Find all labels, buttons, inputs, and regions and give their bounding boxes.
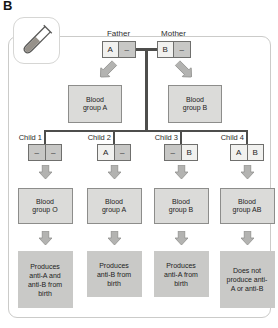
mother-blood-group-box: Blood group B	[168, 85, 222, 123]
child2-allele-box: A –	[97, 144, 131, 161]
child1-label: Child 1	[11, 133, 42, 142]
child2-blood-group-box: Blood group A	[87, 188, 142, 224]
down-arrow-icon	[175, 165, 188, 179]
child3-allele-box: – B	[164, 144, 198, 161]
child3-label: Child 3	[147, 133, 178, 142]
child2-label: Child 2	[80, 133, 111, 142]
father-allele-o: –	[118, 42, 135, 57]
child4-allele-box: A B	[230, 144, 264, 161]
figure-label: B	[3, 0, 12, 13]
down-arrow-icon	[241, 165, 254, 179]
mother-allele-o: –	[173, 42, 190, 57]
father-label: Father	[89, 29, 149, 38]
mother-label: Mother	[144, 29, 204, 38]
child3-antibody-box: Produces anti-A from birth	[154, 251, 209, 297]
mother-allele-box: B –	[157, 41, 191, 58]
father-blood-group-box: Blood group A	[68, 85, 122, 123]
father-allele-box: A –	[102, 41, 136, 58]
child1-allele-box: – –	[28, 144, 62, 161]
child2-antibody-box: Produces anti-B from birth	[87, 251, 142, 297]
test-tube-icon	[13, 17, 60, 64]
child1-antibody-box: Produces anti-A and anti-B from birth	[18, 251, 73, 308]
down-arrow-icon	[175, 231, 188, 245]
father-allele-a: A	[103, 42, 119, 57]
sibling-line	[44, 130, 249, 133]
child4-antibody-box: Does not produce anti-A or anti-B	[220, 251, 275, 308]
child3-blood-group-box: Blood group B	[154, 188, 209, 224]
descent-line	[145, 48, 148, 132]
down-arrow-icon	[39, 165, 52, 179]
down-arrow-icon	[108, 231, 121, 245]
child1-blood-group-box: Blood group O	[18, 188, 73, 224]
child-drop-line	[113, 130, 116, 144]
down-arrow-icon	[241, 231, 254, 245]
child4-blood-group-box: Blood group AB	[220, 188, 275, 224]
child-drop-line	[44, 130, 47, 144]
pedigree-diagram: B Father A – Blood group A Mother B –	[0, 0, 278, 328]
child-drop-line	[246, 130, 249, 144]
child-drop-line	[180, 130, 183, 144]
down-arrow-icon	[39, 231, 52, 245]
down-arrow-icon	[108, 165, 121, 179]
child4-label: Child 4	[213, 133, 244, 142]
mother-allele-b: B	[158, 42, 174, 57]
